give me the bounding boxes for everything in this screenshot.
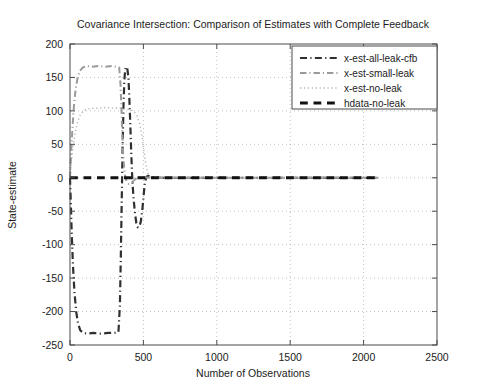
- chart-legend[interactable]: x-est-all-leak-cfbx-est-small-leakx-est-…: [292, 46, 437, 109]
- x-tick-label: 0: [67, 351, 73, 363]
- x-tick-label: 1500: [279, 351, 303, 363]
- legend-label[interactable]: x-est-small-leak: [344, 68, 415, 79]
- y-axis-label: State-estimate: [6, 161, 18, 229]
- legend-label[interactable]: hdata-no-leak: [344, 98, 406, 109]
- x-tick-label: 1000: [205, 351, 229, 363]
- legend-label[interactable]: x-est-all-leak-cfb: [344, 53, 418, 64]
- x-tick-label: 500: [135, 351, 153, 363]
- chart-title: Covariance Intersection: Comparison of E…: [77, 18, 430, 30]
- y-tick-label: 50: [51, 138, 63, 150]
- y-tick-label: -250: [42, 339, 63, 351]
- y-tick-label: -200: [42, 305, 63, 317]
- y-tick-label: 100: [45, 105, 63, 117]
- x-tick-label: 2000: [352, 351, 376, 363]
- y-tick-label: -100: [42, 238, 63, 250]
- chart-figure: Covariance Intersection: Comparison of E…: [0, 0, 481, 387]
- y-tick-label: -150: [42, 272, 63, 284]
- y-tick-label: 150: [45, 71, 63, 83]
- y-tick-label: 200: [45, 38, 63, 50]
- y-tick-label: 0: [57, 172, 63, 184]
- legend-label[interactable]: x-est-no-leak: [344, 83, 403, 94]
- y-tick-label: -50: [48, 205, 63, 217]
- x-tick-label: 2500: [425, 351, 449, 363]
- x-axis-label: Number of Observations: [196, 367, 310, 379]
